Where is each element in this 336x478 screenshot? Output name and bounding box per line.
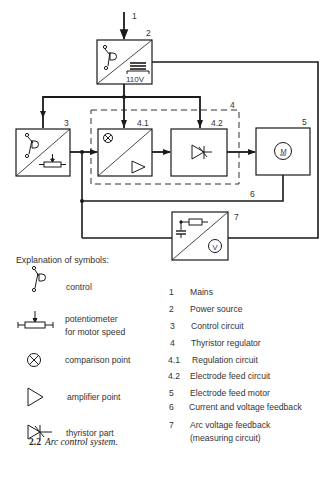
voltmeter-symbol: V	[213, 243, 218, 252]
symbol-label-comparison: comparison point	[65, 355, 130, 365]
legend-text: Arc voltage feedback	[190, 420, 270, 430]
label-regulation-circuit: 4.1	[137, 118, 149, 128]
symbol-label-amplifier: amplifier point	[67, 392, 121, 402]
legend-num: 4.2	[168, 371, 180, 381]
control-switch-icon	[32, 266, 45, 291]
legend-num: 5	[169, 388, 174, 398]
label-feedback: 6	[250, 189, 255, 199]
legend-text: Regulation circuit	[192, 355, 258, 365]
legend-num: 1	[169, 287, 174, 297]
figure-caption: 2.2Arc control system.	[29, 437, 118, 447]
label-thyristor-regulator: 4	[230, 100, 235, 110]
symbols-heading: Explanation of symbols:	[16, 255, 109, 265]
legend-text: Mains	[190, 287, 213, 297]
symbol-label-control: control	[66, 282, 92, 292]
label-mains: 1	[132, 11, 137, 21]
label-power-source: 2	[146, 28, 151, 38]
comparison-point-icon	[28, 354, 41, 367]
legend-text: Power source	[190, 304, 243, 314]
legend-num: 2	[169, 304, 174, 314]
legend-text-continued: (measuring circuit)	[190, 433, 261, 443]
legend-text: Control circuit	[191, 321, 244, 331]
label-electrode-feed-motor: 5	[302, 117, 307, 127]
potentiometer-icon	[18, 311, 53, 328]
amplifier-icon	[28, 388, 43, 406]
legend-num: 6	[169, 402, 174, 412]
label-arc-voltage-feedback: 7	[234, 212, 239, 222]
legend-num: 4	[170, 338, 175, 348]
caption-title: Arc control system.	[45, 437, 118, 447]
label-control-circuit: 3	[64, 118, 69, 128]
electrode-feed-circuit-box	[171, 129, 227, 176]
legend-num: 7	[169, 420, 174, 430]
legend-num: 3	[170, 321, 175, 331]
caption-number: 2.2	[29, 437, 41, 447]
motor-symbol: M	[281, 147, 287, 156]
legend-text: Thyristor regulator	[191, 338, 261, 348]
voltage-label: 110V	[126, 75, 145, 84]
legend-num: 4.1	[168, 355, 180, 365]
legend-text: Electrode feed motor	[190, 388, 270, 398]
label-electrode-feed-circuit: 4.2	[211, 118, 223, 128]
symbol-label-potentiometer: potentiometer	[65, 314, 118, 324]
legend-text: Electrode feed circuit	[190, 371, 270, 381]
legend-text: Current and voltage feedback	[189, 402, 302, 412]
symbol-label-potentiometer-2: for motor speed	[65, 327, 125, 337]
